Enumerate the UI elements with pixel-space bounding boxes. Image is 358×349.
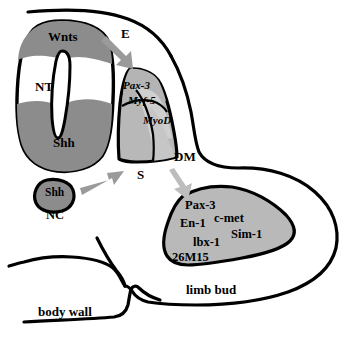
label-e: E [121,27,130,40]
label-dm: DM [174,150,196,163]
arrow-notochord-to-somite [80,171,124,195]
label-pax3-limb: Pax-3 [185,199,216,212]
label-nc: NC [46,209,64,222]
label-en1: En-1 [180,217,206,230]
label-myf5: Myf-5 [128,95,156,106]
label-26m15: 26M15 [172,251,209,264]
label-cmet: c-met [214,212,244,225]
label-limb-bud: limb bud [186,283,236,296]
body-wall-inner-line [9,257,125,286]
diagram-canvas [0,0,358,349]
label-lbx1: lbx-1 [193,236,220,249]
label-sim1: Sim-1 [231,228,262,241]
label-s: S [137,168,144,181]
label-myod: MyoD [143,115,171,126]
label-pax3-somite: Pax-3 [123,80,150,91]
label-nt: NT [35,80,53,93]
label-wnts: Wnts [48,30,78,43]
label-shh-notochord: Shh [45,187,64,199]
label-shh-neural-tube: Shh [53,136,75,149]
arrow-dermomyotome-to-limbbud [169,168,192,200]
label-body-wall: body wall [38,305,92,318]
